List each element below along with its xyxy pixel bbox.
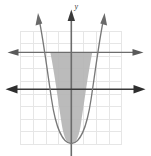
- y-axis-label: y: [74, 2, 79, 11]
- coordinate-plane-svg: y: [0, 0, 151, 156]
- graph-figure: y: [0, 0, 151, 156]
